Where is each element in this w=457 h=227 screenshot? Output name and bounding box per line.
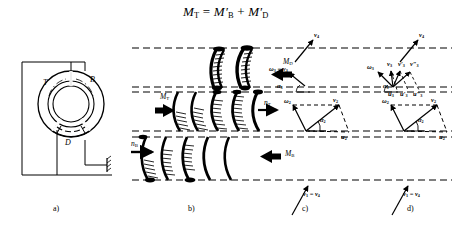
label-c-alpha2: α2 [320, 117, 326, 124]
label-stator-D: D [65, 139, 71, 147]
label-d-omega2: ω2 [382, 98, 389, 105]
turbine-blade-row [174, 90, 263, 131]
label-d-v4: v4 [419, 32, 424, 39]
label-c-omega2: ω2 [284, 98, 291, 105]
panel-b-cascades [131, 45, 292, 182]
label-c-v4: v4 [314, 32, 319, 39]
panel-a-schematic [22, 62, 112, 175]
figure-torque-converter: T MT = M′B + M′D [0, 0, 457, 227]
label-d-alpha2: α2 [418, 117, 424, 124]
stator-blade-row [211, 45, 254, 90]
pump-blade-row [139, 135, 231, 183]
label-d-v1-v4: v1 = v4 [403, 191, 420, 198]
label-torque-turbine: MT [160, 93, 169, 102]
panel-c-velocity-triangles [289, 40, 349, 215]
label-speed-pump: nB [131, 140, 138, 149]
label-d-v3-double-prime: v″3 [410, 61, 419, 68]
label-turbine-T: T [43, 79, 47, 87]
label-d-u3: u3 [388, 91, 394, 98]
label-d-omega3: ω3 [367, 64, 374, 71]
label-c-omega3-v3: ω3 = v3 [269, 66, 288, 73]
label-d-u3-prime: u′3 [400, 91, 408, 98]
arrow-torque-pump [260, 150, 281, 163]
caption-d: d) [407, 205, 414, 213]
label-d-v3: v3 [387, 61, 392, 68]
label-torque-pump: MB [285, 150, 295, 159]
label-speed-turbine: nT [264, 99, 271, 108]
caption-b: b) [188, 205, 195, 213]
label-d-v2: v2 [431, 97, 436, 104]
label-d-u3-double-prime: u″3 [413, 91, 422, 98]
caption-a: a) [53, 205, 59, 213]
caption-c: c) [302, 205, 308, 213]
label-c-v2: v2 [333, 97, 338, 104]
label-d-u2: u2 [439, 134, 445, 141]
label-pump-B: B [90, 76, 95, 84]
figure-artwork [0, 0, 457, 227]
label-c-u2: u2 [341, 134, 347, 141]
label-c-alpha3: α3 [277, 83, 283, 90]
label-d-v3-prime: v′3 [398, 61, 405, 68]
arrow-torque-turbine [155, 104, 175, 117]
label-c-v1-v4: v1 = v4 [303, 191, 320, 198]
